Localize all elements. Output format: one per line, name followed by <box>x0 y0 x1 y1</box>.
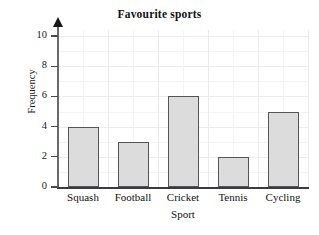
y-axis-tick <box>51 156 58 157</box>
y-axis-title: Frequency <box>26 47 37 137</box>
y-axis-tick <box>51 35 58 36</box>
x-axis-line <box>57 187 309 189</box>
x-axis-tick-label: Squash <box>58 191 108 203</box>
bar <box>118 142 149 187</box>
plot-area <box>58 30 308 187</box>
y-axis-tick <box>51 96 58 97</box>
y-axis-tick <box>51 126 58 127</box>
chart-title: Favourite sports <box>0 8 319 20</box>
y-axis-tick-label: 2 <box>7 151 47 162</box>
x-axis-tick-label: Tennis <box>208 191 258 203</box>
gridline-vertical <box>308 30 309 187</box>
y-axis-tick <box>51 186 58 187</box>
bar-series <box>58 30 308 187</box>
y-axis-arrow-icon <box>53 17 63 27</box>
bar <box>218 157 249 187</box>
x-axis-tick-label: Cycling <box>258 191 308 203</box>
bar-chart-figure: Favourite sports 0246810 SquashFootballC… <box>0 0 319 235</box>
x-axis-tick-label: Cricket <box>158 191 208 203</box>
x-axis-title: Sport <box>58 208 308 220</box>
y-axis-tick <box>51 66 58 67</box>
bar <box>268 112 299 188</box>
bar <box>168 96 199 187</box>
y-axis-tick-label: 0 <box>7 181 47 192</box>
y-axis-tick-label: 10 <box>7 30 47 41</box>
y-axis-line <box>57 25 59 188</box>
bar <box>68 127 99 187</box>
x-axis-tick-label: Football <box>108 191 158 203</box>
